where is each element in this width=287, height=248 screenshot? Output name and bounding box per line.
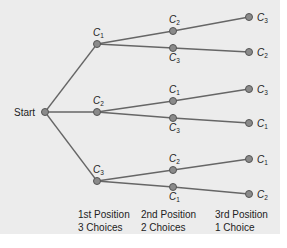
node-label: C2 <box>93 95 104 107</box>
node-label: C2 <box>169 14 180 26</box>
level-choices: 1 Choice <box>215 221 268 234</box>
level-title: 2nd Position <box>141 208 196 221</box>
start-node <box>42 109 49 116</box>
level-choices: 3 Choices <box>78 221 130 234</box>
node-label: C1 <box>257 118 268 130</box>
edge <box>173 159 249 170</box>
node-label: C1 <box>257 154 268 166</box>
edge <box>97 44 173 48</box>
node-2 <box>170 184 177 191</box>
edge <box>97 170 173 181</box>
start-label: Start <box>14 107 35 118</box>
node-1-1 <box>94 41 101 48</box>
node-label: C3 <box>93 164 104 176</box>
node-label: C2 <box>257 47 268 59</box>
node-label: C2 <box>257 189 268 201</box>
edge <box>173 118 249 123</box>
node-label: C2 <box>169 153 180 165</box>
node-3 <box>246 156 253 163</box>
node-1-3 <box>94 178 101 185</box>
node-2 <box>170 28 177 35</box>
node-label: C3 <box>169 52 180 64</box>
level-title: 1st Position <box>78 208 130 221</box>
edge <box>173 17 249 31</box>
edge <box>173 48 249 52</box>
node-3 <box>246 14 253 21</box>
node-label: C1 <box>93 27 104 39</box>
node-3 <box>246 86 253 93</box>
edge <box>173 89 249 101</box>
level-caption-1: 1st Position 3 Choices <box>78 208 130 234</box>
edge <box>97 112 173 118</box>
node-label: C1 <box>169 191 180 203</box>
edge <box>45 44 97 112</box>
edge <box>173 187 249 194</box>
node-1-2 <box>94 109 101 116</box>
level-title: 3rd Position <box>215 208 268 221</box>
node-2 <box>170 45 177 52</box>
node-3 <box>246 120 253 127</box>
edge <box>97 31 173 44</box>
node-3 <box>246 49 253 56</box>
edge <box>45 112 97 181</box>
edge <box>97 101 173 112</box>
level-caption-3: 3rd Position 1 Choice <box>215 208 268 234</box>
node-2 <box>170 167 177 174</box>
node-2 <box>170 115 177 122</box>
node-2 <box>170 98 177 105</box>
edge <box>97 181 173 187</box>
node-label: C3 <box>257 12 268 24</box>
level-caption-2: 2nd Position 2 Choices <box>141 208 196 234</box>
level-choices: 2 Choices <box>141 221 196 234</box>
node-label: C3 <box>257 84 268 96</box>
node-label: C1 <box>169 84 180 96</box>
node-label: C3 <box>169 122 180 134</box>
node-3 <box>246 191 253 198</box>
